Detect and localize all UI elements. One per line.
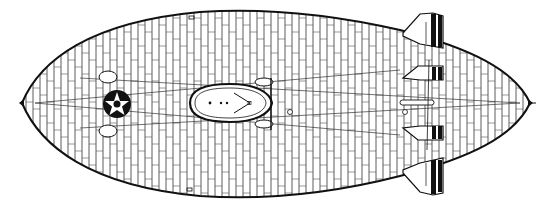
forward-port-hatch [99, 71, 117, 83]
hull [22, 0, 530, 209]
hull-port-icon [288, 110, 293, 115]
star-roundel-icon [103, 90, 131, 118]
forward-starboard-hatch [99, 125, 117, 137]
nose-cap-icon [19, 99, 24, 107]
control-car [190, 84, 272, 122]
airship-drawing: Airship top-view line drawing [0, 0, 550, 209]
tail-tip-icon [528, 99, 536, 107]
airship-svg [0, 0, 550, 209]
tail-port-icon [403, 110, 408, 115]
